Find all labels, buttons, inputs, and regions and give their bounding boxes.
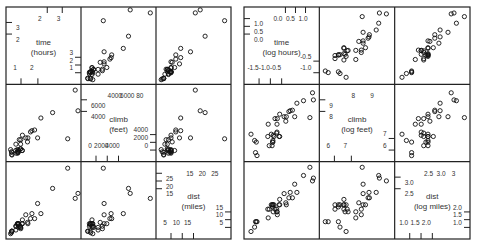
data-point [96,72,100,76]
data-point [24,213,28,217]
data-point [284,119,288,123]
tick-label: 1.5 [410,219,419,226]
data-point [148,11,152,15]
tick-label: 25 [166,175,174,182]
data-point [51,111,55,115]
data-point [101,19,105,23]
data-point [400,132,404,136]
raw-scatterplot-matrix: time(hours)231223123climb(feet)400060008… [6,7,231,239]
tick-label: 4000 [105,142,120,149]
data-point [404,138,408,142]
tick-label: 2 [16,36,20,43]
tick-label: 2 [69,57,73,64]
data-point [266,216,270,220]
data-point [404,71,408,75]
tick-label: 7 [344,142,348,149]
data-point [223,137,227,141]
data-point [449,12,453,16]
data-point [363,46,367,50]
data-point [96,67,100,71]
tick-label: 20 [166,183,174,190]
data-point [361,30,365,34]
data-point [311,176,315,180]
data-point [413,57,417,61]
variable-unit-label: (feet) [109,125,128,134]
tick-label: 0 [88,142,92,149]
tick-label: 4000 [91,113,106,120]
data-point [377,173,381,177]
variable-unit-label: (hours) [31,48,57,57]
variable-unit-label: (log feet) [341,125,373,134]
data-point [416,117,420,121]
data-point [361,192,365,196]
data-point [413,122,417,126]
tick-label: 0.0 [273,15,282,22]
data-point [360,165,364,169]
data-point [128,191,132,195]
data-point [344,229,348,233]
tick-label: 3.0 [405,179,414,186]
variable-label: time [274,38,290,47]
tick-label: 2.0 [453,204,462,211]
data-point [170,140,174,144]
variable-label: climb [348,115,367,124]
variable-unit-label: (log miles) [414,202,451,211]
data-point [310,91,314,95]
data-point [179,56,183,60]
data-point [275,122,279,126]
tick-label: 15 [216,204,224,211]
tick-label: -1.0 [300,64,312,71]
tick-label: 7 [383,130,387,137]
data-point [357,201,361,205]
data-point [73,196,77,200]
data-point [98,220,102,224]
data-point [188,136,192,140]
variable-unit-label: (log hours) [263,48,302,57]
data-point [419,122,423,126]
data-point [96,228,100,232]
data-point [301,99,305,103]
data-point [39,116,43,120]
data-point [126,34,130,38]
data-point [293,115,297,119]
data-point [278,197,282,201]
data-point [359,207,363,211]
data-point [377,11,381,15]
data-point [422,117,426,121]
data-point [198,8,202,12]
data-point [39,212,43,216]
data-point [101,166,105,170]
data-point [377,21,381,25]
data-point [25,140,29,144]
data-point [102,201,106,205]
data-point [179,129,183,133]
data-point [344,75,348,79]
data-point [249,132,253,136]
data-point [193,88,197,92]
data-point [357,39,361,43]
data-point [374,190,378,194]
tick-label: 6 [383,142,387,149]
tick-label: 1.0 [453,219,462,226]
tick-label: 1.0 [298,15,307,22]
data-point [438,28,442,32]
data-point [367,190,371,194]
tick-label: 6000 [91,102,106,109]
data-point [14,142,18,146]
data-point [374,28,378,32]
data-point [148,196,152,200]
data-point [121,212,125,216]
data-point [36,201,40,205]
data-point [179,46,183,50]
data-point [354,48,358,52]
tick-label: 1.5 [453,211,462,218]
data-point [354,210,358,214]
data-point [295,101,299,105]
tick-label: 10 [173,219,181,226]
data-point [437,41,441,45]
data-point [177,136,181,140]
data-point [266,134,270,138]
data-point [342,197,346,201]
data-point [28,217,32,221]
tick-label: 2000 [134,134,149,141]
